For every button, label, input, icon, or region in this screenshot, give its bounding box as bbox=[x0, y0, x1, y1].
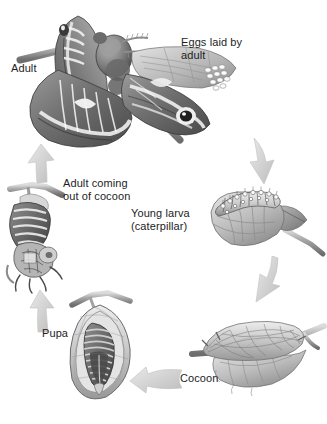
moth-life-cycle-diagram: Adult Eggs laid by adult Adult coming ou… bbox=[0, 0, 327, 424]
arrow-eggs-to-larva bbox=[248, 136, 292, 188]
label-young-larva: Young larva (caterpillar) bbox=[131, 207, 190, 232]
stage-illustration-adult bbox=[14, 8, 249, 153]
arrow-adult-coming-to-adult bbox=[24, 142, 56, 184]
label-eggs-laid-by-adult: Eggs laid by adult bbox=[181, 36, 242, 61]
twig-pupa bbox=[72, 293, 130, 305]
cocoon-silk bbox=[204, 321, 304, 360]
twig-larva bbox=[285, 230, 323, 254]
arrow-larva-to-cocoon bbox=[252, 256, 296, 306]
label-adult: Adult bbox=[11, 62, 37, 75]
label-cocoon: Cocoon bbox=[180, 372, 219, 385]
stage-illustration-young-larva bbox=[203, 186, 327, 260]
arrow-cocoon-to-pupa bbox=[128, 366, 184, 398]
twig-emergence bbox=[10, 185, 62, 195]
label-pupa: Pupa bbox=[42, 327, 68, 340]
head bbox=[93, 32, 107, 44]
hindwing-eyespot bbox=[180, 110, 192, 121]
label-adult-coming-out-of-cocoon: Adult coming out of cocoon bbox=[63, 177, 130, 202]
